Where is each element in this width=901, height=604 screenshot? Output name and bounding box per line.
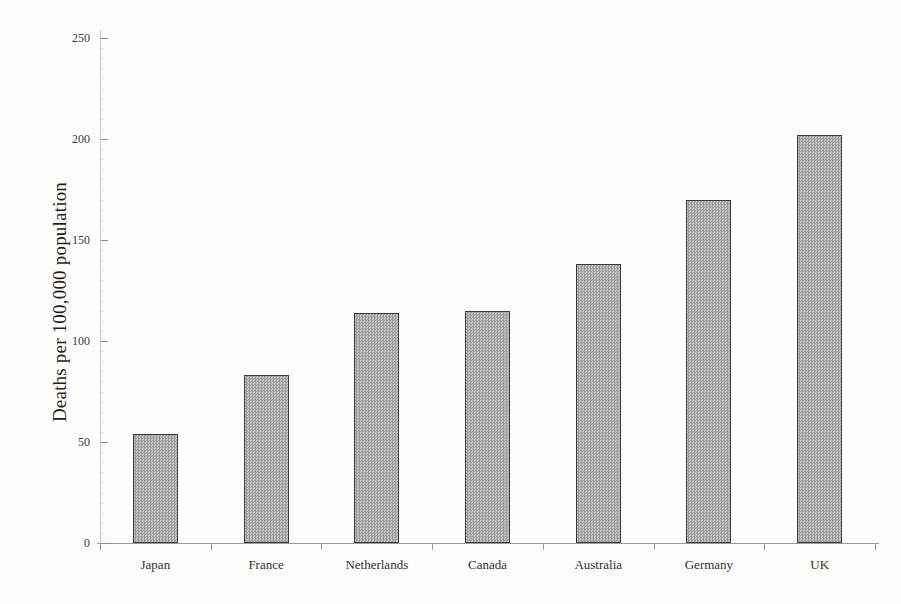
y-tick-label: 150 (56, 234, 90, 246)
y-minor-tick (101, 432, 104, 433)
y-minor-tick (101, 270, 104, 271)
y-minor-tick (101, 462, 104, 463)
y-minor-tick (101, 149, 104, 150)
y-minor-tick (101, 159, 104, 160)
x-tick (211, 544, 212, 550)
y-tick-label: 50 (56, 436, 90, 448)
y-minor-tick (101, 129, 104, 130)
y-minor-tick (101, 58, 104, 59)
y-minor-tick (101, 493, 104, 494)
y-minor-tick (101, 109, 104, 110)
bar-uk (797, 135, 842, 543)
y-tick (101, 341, 108, 342)
y-minor-tick (101, 371, 104, 372)
y-minor-tick (101, 230, 104, 231)
y-tick-label-text: 50 (56, 436, 90, 448)
y-axis-title-text: Deaths per 100,000 population (49, 182, 71, 422)
y-minor-tick (101, 412, 104, 413)
y-minor-tick (101, 311, 104, 312)
y-tick-label-text: 200 (56, 133, 90, 145)
y-minor-tick (101, 452, 104, 453)
y-minor-tick (101, 220, 104, 221)
bar-netherlands (354, 313, 399, 543)
y-minor-tick (101, 482, 104, 483)
y-minor-tick (101, 472, 104, 473)
y-minor-tick (101, 200, 104, 201)
y-minor-tick (101, 260, 104, 261)
x-tick (321, 544, 322, 550)
y-minor-tick (101, 179, 104, 180)
x-tick-label-uk: UK (750, 558, 890, 571)
y-minor-tick (101, 89, 104, 90)
x-tick (543, 544, 544, 550)
y-tick (101, 543, 108, 544)
y-minor-tick (101, 68, 104, 69)
y-minor-tick (101, 210, 104, 211)
y-minor-tick (101, 301, 104, 302)
y-minor-tick (101, 422, 104, 423)
y-tick (101, 240, 108, 241)
y-minor-tick (101, 503, 104, 504)
y-tick-label-text: 0 (56, 537, 90, 549)
y-minor-tick (101, 169, 104, 170)
bar-france (244, 375, 289, 543)
y-minor-tick (101, 99, 104, 100)
y-tick-label-text: 100 (56, 335, 90, 347)
bar-canada (465, 311, 510, 543)
y-minor-tick (101, 351, 104, 352)
y-axis-line (100, 30, 101, 544)
y-minor-tick (101, 250, 104, 251)
y-tick-label: 250 (56, 32, 90, 44)
y-minor-tick (101, 523, 104, 524)
x-axis-line (97, 543, 879, 544)
y-minor-tick (101, 291, 104, 292)
bar-australia (576, 264, 621, 543)
y-tick-label: 200 (56, 133, 90, 145)
y-minor-tick (101, 321, 104, 322)
y-minor-tick (101, 381, 104, 382)
y-axis-title: Deaths per 100,000 population (30, 0, 90, 604)
y-tick-label-text: 250 (56, 32, 90, 44)
x-tick (764, 544, 765, 550)
x-tick (432, 544, 433, 550)
y-minor-tick (101, 513, 104, 514)
bar-germany (686, 200, 731, 543)
y-minor-tick (101, 361, 104, 362)
chart-figure: Deaths per 100,000 population 0501001502… (0, 0, 901, 604)
x-tick (875, 544, 876, 550)
y-tick-label: 0 (56, 537, 90, 549)
y-minor-tick (101, 119, 104, 120)
x-tick (654, 544, 655, 550)
y-minor-tick (101, 331, 104, 332)
y-minor-tick (101, 533, 104, 534)
y-tick (101, 139, 108, 140)
y-minor-tick (101, 48, 104, 49)
y-minor-tick (101, 78, 104, 79)
y-minor-tick (101, 392, 104, 393)
y-tick-label-text: 150 (56, 234, 90, 246)
y-minor-tick (101, 280, 104, 281)
bar-japan (133, 434, 178, 543)
y-tick (101, 442, 108, 443)
y-minor-tick (101, 190, 104, 191)
y-minor-tick (101, 402, 104, 403)
y-tick-label: 100 (56, 335, 90, 347)
x-tick (100, 544, 101, 550)
y-tick (101, 38, 108, 39)
